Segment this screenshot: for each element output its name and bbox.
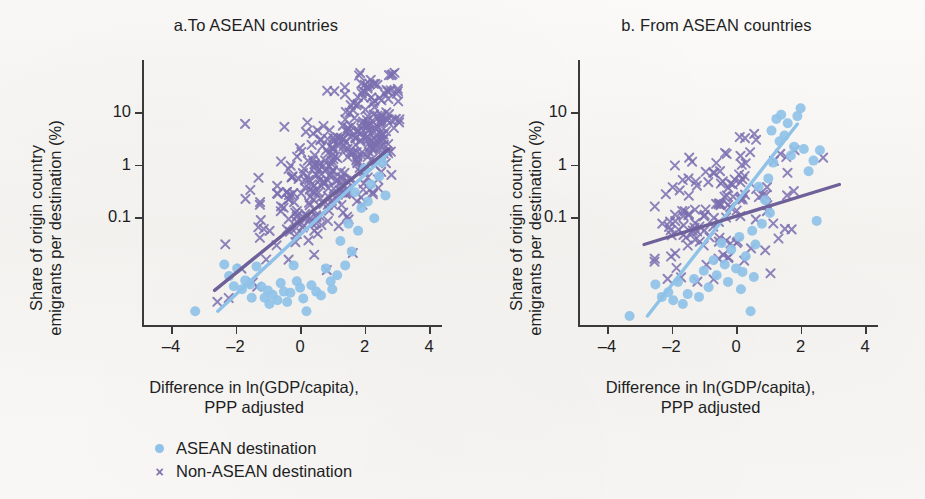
data-point-circle [332, 270, 342, 280]
data-point-circle [316, 291, 326, 301]
x-tick-label: 4 [425, 338, 434, 355]
data-point-circle [689, 274, 699, 284]
data-point-cross [257, 216, 265, 224]
data-point-cross [350, 114, 358, 122]
data-point-circle [734, 232, 744, 242]
data-point-cross [241, 195, 249, 203]
data-point-cross [769, 219, 777, 227]
data-point-circle [302, 306, 312, 316]
data-point-cross [680, 221, 688, 229]
x-tick-mark [801, 327, 803, 334]
data-point-circle [219, 260, 229, 270]
data-point-circle [678, 299, 688, 309]
data-point-cross [704, 178, 712, 186]
x-axis-label-line1: Difference in ln(GDP/capita), [149, 378, 359, 396]
data-point-circle [767, 126, 777, 136]
y-tick-label: 1 [558, 156, 567, 173]
legend-item-non-asean-destination: × Non-ASEAN destination [152, 460, 352, 483]
data-point-circle [369, 213, 379, 223]
data-point-cross [254, 174, 262, 182]
y-axis-label-line2: emigrants per destination (%) [46, 120, 64, 336]
data-point-cross [387, 171, 395, 179]
data-point-circle [344, 219, 354, 229]
data-point-circle [765, 208, 775, 218]
data-point-cross [702, 168, 710, 176]
data-point-circle [749, 272, 759, 282]
data-point-circle [804, 166, 814, 176]
data-point-cross [671, 217, 679, 225]
data-point-cross [671, 161, 679, 169]
data-point-cross [339, 209, 347, 217]
data-point-circle [717, 238, 727, 248]
x-tick-mark [171, 327, 173, 334]
legend-dot-shape [155, 444, 164, 453]
panel-b-data-marks [578, 60, 878, 327]
data-point-circle [726, 245, 736, 255]
data-point-cross [280, 123, 288, 131]
data-point-cross [664, 275, 672, 283]
data-point-cross [788, 225, 796, 233]
data-point-circle [347, 247, 357, 257]
x-axis-label-line1: Difference in ln(GDP/capita), [606, 378, 816, 396]
panel-a-plot-area: 1010.1 –4–2024 [142, 60, 442, 327]
y-tick-mark [135, 217, 142, 219]
data-point-cross [246, 186, 254, 194]
data-point-cross [685, 192, 693, 200]
panel-b-x-axis-label: Difference in ln(GDP/capita), PPP adjust… [468, 378, 925, 418]
data-point-cross [241, 120, 249, 128]
data-point-cross [766, 269, 774, 277]
data-point-circle [746, 306, 756, 316]
data-point-circle [741, 251, 751, 261]
legend-cross-shape: × [155, 465, 163, 479]
data-point-cross [712, 159, 720, 167]
data-point-cross [310, 251, 318, 259]
figure-two-panel-scatter: a.To ASEAN countries Share of origin cou… [0, 0, 925, 499]
data-point-circle [650, 279, 660, 289]
panel-a-y-axis-line [142, 60, 144, 327]
x-tick-mark [429, 327, 431, 334]
data-point-cross [288, 173, 296, 181]
data-point-circle [282, 297, 292, 307]
y-tick-mark [571, 217, 578, 219]
data-point-circle [683, 289, 693, 299]
circle-marker-icon [152, 444, 167, 453]
data-point-circle [190, 306, 200, 316]
data-point-cross [293, 153, 301, 161]
legend-label-non-asean-destination: Non-ASEAN destination [176, 460, 352, 483]
y-tick-mark [135, 112, 142, 114]
data-point-circle [709, 255, 719, 265]
data-point-circle [699, 266, 709, 276]
data-point-cross [256, 234, 264, 242]
data-point-circle [809, 156, 819, 166]
panel-b-y-axis-label: Share of origin country emigrants per de… [507, 88, 546, 368]
data-point-cross [310, 227, 318, 235]
panel-a-data-marks [142, 60, 442, 327]
data-point-cross [323, 87, 331, 95]
data-point-cross [341, 90, 349, 98]
data-point-cross [273, 182, 281, 190]
data-point-circle [295, 283, 305, 293]
data-point-circle [321, 263, 331, 273]
data-point-circle [738, 267, 748, 277]
data-point-cross [684, 241, 692, 249]
data-point-circle [789, 142, 799, 152]
data-point-circle [723, 277, 733, 287]
data-point-cross [671, 249, 679, 257]
panel-a-legend: ASEAN destination × Non-ASEAN destinatio… [152, 437, 352, 483]
x-tick-label: –4 [598, 338, 616, 355]
data-point-cross [746, 148, 754, 156]
panel-a-title: a.To ASEAN countries [0, 16, 490, 35]
y-tick-label: 0.1 [544, 209, 567, 226]
cross-marker-icon: × [152, 465, 167, 479]
data-point-circle [760, 195, 770, 205]
data-point-circle [815, 145, 825, 155]
data-point-cross [303, 118, 311, 126]
panel-b-x-axis-line [578, 325, 878, 327]
data-point-cross [308, 141, 316, 149]
data-point-circle [736, 284, 746, 294]
x-tick-mark [865, 327, 867, 334]
data-point-circle [298, 294, 308, 304]
data-point-circle [285, 288, 295, 298]
data-point-circle [796, 103, 806, 113]
data-point-circle [712, 270, 722, 280]
